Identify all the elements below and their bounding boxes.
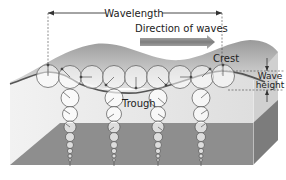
wave-diagram: Wavelength Direction of waves Crest Wave… [0, 0, 286, 180]
crest-label: Crest [213, 53, 239, 64]
wavelength-label: Wavelength [104, 8, 163, 19]
wave-height-label-2: height [256, 80, 285, 90]
direction-label: Direction of waves [135, 23, 228, 34]
direction-arrow-icon [140, 35, 215, 49]
surface-orbits [37, 65, 235, 89]
trough-label: Trough [121, 98, 156, 109]
direction-of-waves: Direction of waves [135, 23, 228, 49]
